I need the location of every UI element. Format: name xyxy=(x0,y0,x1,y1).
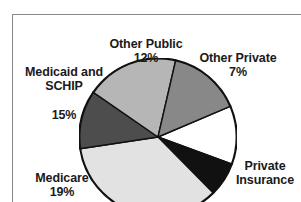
slice-label-medicaid-schip-name-line1: Medicaid and xyxy=(25,65,103,79)
slice-label-other-public-name: Other Public xyxy=(109,37,182,51)
slice-label-medicaid-schip-value: 15% xyxy=(10,108,118,123)
slice-label-private-insurance-name-line2: Insurance xyxy=(228,173,301,188)
slice-label-medicare: Medicare 19% xyxy=(16,156,108,202)
slice-label-private-insurance: Private Insurance 35% xyxy=(228,144,301,202)
slice-label-other-private: Other Private 7% xyxy=(186,36,290,94)
slice-label-medicaid-schip-name-line2: SCHIP xyxy=(10,79,118,94)
slice-label-medicare-value: 19% xyxy=(16,185,108,200)
pie-chart-figure: Other Public 12% Other Private 7% Medica… xyxy=(0,0,301,202)
slice-label-other-private-value: 7% xyxy=(186,65,290,80)
slice-label-private-insurance-name-line1: Private xyxy=(245,159,286,173)
slice-label-medicaid-schip: Medicaid and SCHIP 15% xyxy=(10,50,118,137)
slice-label-medicare-name: Medicare xyxy=(35,171,88,185)
slice-label-other-private-name: Other Private xyxy=(199,51,276,65)
